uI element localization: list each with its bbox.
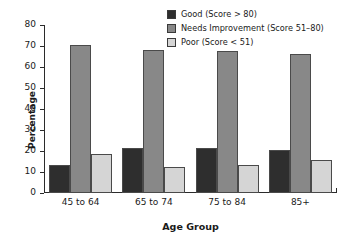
bar-group: 85+ — [264, 25, 337, 193]
y-tick-label: 70 — [25, 40, 36, 51]
x-tick-label: 65 to 74 — [117, 197, 190, 207]
x-tick-label: 75 to 84 — [191, 197, 264, 207]
y-tick-label: 30 — [25, 124, 36, 135]
bar-group: 65 to 74 — [117, 25, 190, 193]
bar — [91, 154, 112, 193]
bar-group: 75 to 84 — [191, 25, 264, 193]
legend-item-good: Good (Score > 80) — [167, 8, 357, 20]
bar — [164, 167, 185, 193]
bar — [290, 54, 311, 193]
plot-area: 01020304050607080 45 to 6465 to 7475 to … — [44, 25, 337, 193]
x-axis-title: Age Group — [44, 221, 337, 232]
legend-swatch-good — [167, 10, 176, 19]
y-tick-label: 10 — [25, 166, 36, 177]
y-tick-label: 80 — [25, 19, 36, 30]
y-tick-label: 50 — [25, 82, 36, 93]
x-tick-label: 45 to 64 — [44, 197, 117, 207]
bar-chart-figure: Good (Score > 80) Needs Improvement (Sco… — [0, 0, 357, 239]
bar — [122, 148, 143, 193]
y-tick: 0 — [40, 193, 44, 194]
bar — [196, 148, 217, 193]
bar — [143, 50, 164, 193]
legend-label-good: Good (Score > 80) — [181, 10, 257, 19]
bar — [49, 165, 70, 193]
bar — [311, 160, 332, 193]
bar — [70, 45, 91, 193]
bar — [217, 51, 238, 193]
y-axis-title: Percentage — [27, 91, 37, 149]
x-tick-label: 85+ — [264, 197, 337, 207]
y-tick-label: 60 — [25, 61, 36, 72]
y-tick-label: 0 — [30, 187, 36, 198]
bar — [238, 165, 259, 193]
bar-groups: 45 to 6465 to 7475 to 8485+ — [44, 25, 337, 193]
bar — [269, 150, 290, 193]
bar-group: 45 to 64 — [44, 25, 117, 193]
y-tick-label: 40 — [25, 103, 36, 114]
y-tick-label: 20 — [25, 145, 36, 156]
